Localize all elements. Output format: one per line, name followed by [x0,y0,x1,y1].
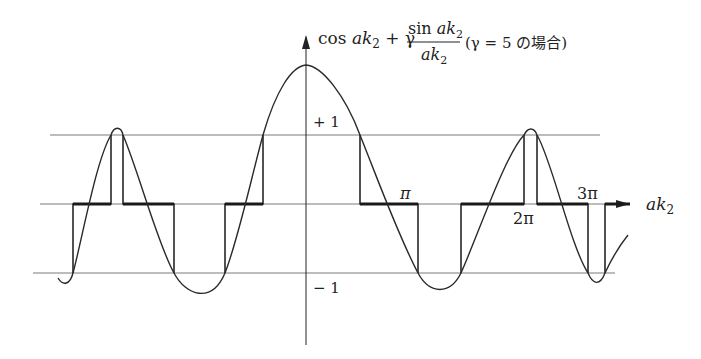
svg-text:sin ak2: sin ak2 [408,19,463,41]
svg-text:cos ak2 + γ: cos ak2 + γ [318,28,415,51]
svg-text:ak2: ak2 [421,45,447,67]
tick-3pi: 3π [577,184,598,203]
gamma-condition: (γ = 5 の場合) [465,34,567,52]
function-title: cos ak2 + γ sin ak2 ak2 (γ = 5 の場合) [318,19,567,67]
y-minus-one-label: − 1 [313,279,340,297]
tick-2pi: 2π [513,209,534,228]
diagram-canvas: + 1 − 1 π 2π 3π ak2 cos ak2 + γ sin ak2 … [0,0,701,359]
tick-pi: π [399,184,411,203]
y-plus-one-label: + 1 [313,113,340,131]
x-axis-label: ak2 [646,194,674,217]
function-curve [58,65,628,293]
